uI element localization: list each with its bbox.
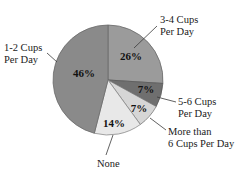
pie-chart: 26% 7% 7% 14% 46% 3-4 Cups Per Day 1-2 C… [0,0,240,176]
slice-label-more-than-6-cups: More than 6 Cups Per Day [168,126,234,149]
slice-label-none: None [97,158,120,170]
slice-value-1-2-cups: 46% [73,67,95,79]
slice-label-1-2-cups: 1-2 Cups Per Day [4,42,42,65]
slice-label-1-2-cups-line1: 1-2 Cups [4,42,42,54]
leader-line-none [106,135,113,155]
leader-line-1-2-cups [47,53,57,62]
slice-label-5-6-cups-line2: Per Day [178,108,216,120]
slice-label-3-4-cups-line1: 3-4 Cups [160,14,198,26]
slice-value-none: 14% [103,117,125,129]
slice-label-none-line1: None [97,158,120,170]
pie-chart-svg: 26% 7% 7% 14% 46% [0,0,240,176]
slice-value-5-6-cups: 7% [138,83,155,95]
slice-label-3-4-cups-line2: Per Day [160,26,198,38]
slice-label-more-than-6-cups-line2: 6 Cups Per Day [168,138,234,150]
slice-label-more-than-6-cups-line1: More than [168,126,234,138]
slice-label-3-4-cups: 3-4 Cups Per Day [160,14,198,37]
slice-label-5-6-cups: 5-6 Cups Per Day [178,96,216,119]
slice-value-more-than-6-cups: 7% [131,102,148,114]
slice-label-1-2-cups-line2: Per Day [4,54,42,66]
slice-label-5-6-cups-line1: 5-6 Cups [178,96,216,108]
leader-line-more-than-6-cups [150,118,166,130]
slice-value-3-4-cups: 26% [120,50,142,62]
